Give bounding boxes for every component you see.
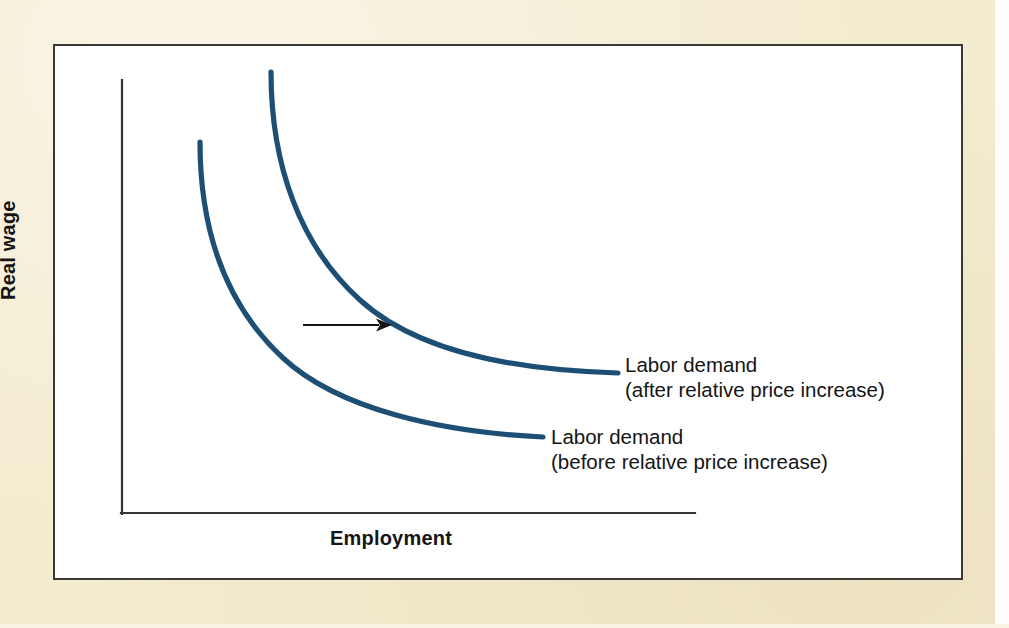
labor-demand-before-label-line1: Labor demand — [551, 424, 828, 449]
labor-demand-after-curve — [271, 72, 618, 373]
figure-page: Real wage Employment Labor demand (after… — [0, 0, 1009, 628]
labor-demand-before-curve — [200, 142, 543, 437]
x-axis-title: Employment — [330, 527, 452, 550]
y-axis-title: Real wage — [0, 200, 20, 300]
labor-demand-before-label: Labor demand (before relative price incr… — [551, 424, 828, 474]
labor-demand-after-label-line1: Labor demand — [625, 352, 885, 377]
labor-demand-before-label-line2: (before relative price increase) — [551, 449, 828, 474]
plot-canvas — [0, 0, 1009, 628]
labor-demand-after-label-line2: (after relative price increase) — [625, 377, 885, 402]
labor-demand-after-label: Labor demand (after relative price incre… — [625, 352, 885, 402]
